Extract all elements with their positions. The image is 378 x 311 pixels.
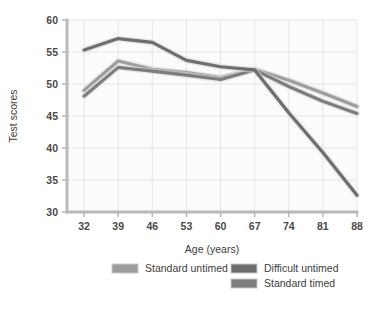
- y-tick-label: 60: [46, 14, 58, 26]
- legend-label-difficult-untimed: Difficult untimed: [264, 262, 339, 274]
- y-tick-label: 45: [46, 110, 58, 122]
- x-tick-label: 74: [283, 220, 295, 232]
- x-tick-label: 39: [112, 220, 124, 232]
- legend-swatch-difficult-untimed: [231, 264, 257, 273]
- y-axis-ticks: 30354045505560: [46, 14, 67, 218]
- legend-label-standard-timed: Standard timed: [264, 277, 335, 289]
- chart-legend: Standard untimedDifficult untimedStandar…: [112, 262, 339, 289]
- x-tick-label: 60: [215, 220, 227, 232]
- x-tick-label: 53: [181, 220, 193, 232]
- x-tick-label: 46: [146, 220, 158, 232]
- x-axis-ticks: 323946536067748188: [78, 212, 363, 232]
- y-tick-label: 35: [46, 174, 58, 186]
- legend-swatch-standard-timed: [231, 279, 257, 288]
- chart-container: 30354045505560 323946536067748188 Age (y…: [0, 0, 378, 311]
- x-tick-label: 81: [317, 220, 329, 232]
- y-tick-label: 55: [46, 46, 58, 58]
- y-tick-label: 30: [46, 206, 58, 218]
- x-tick-label: 88: [351, 220, 363, 232]
- legend-label-standard-untimed: Standard untimed: [145, 262, 228, 274]
- legend-swatch-standard-untimed: [112, 264, 138, 273]
- y-tick-label: 50: [46, 78, 58, 90]
- x-tick-label: 32: [78, 220, 90, 232]
- x-tick-label: 67: [249, 220, 261, 232]
- y-tick-label: 40: [46, 142, 58, 154]
- y-axis-title: Test scores: [7, 89, 19, 142]
- line-chart: 30354045505560 323946536067748188 Age (y…: [0, 0, 378, 311]
- x-axis-title: Age (years): [185, 243, 239, 255]
